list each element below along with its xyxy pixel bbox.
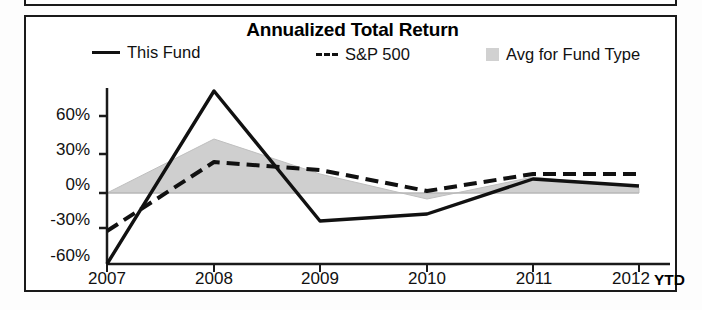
x-axis-ytd-label: YTD xyxy=(654,271,685,289)
dashed-line-swatch-icon xyxy=(316,53,338,56)
gray-band-swatch-icon xyxy=(486,48,499,61)
avg-fund-type-band xyxy=(107,139,639,199)
legend-label-sp500: S&P 500 xyxy=(345,45,410,64)
adjacent-panel-bottom-edge xyxy=(24,0,677,6)
plot-svg xyxy=(26,67,679,292)
legend-label-this-fund: This Fund xyxy=(127,43,200,62)
annualized-total-return-chart: Annualized Total Return This Fund S&P 50… xyxy=(24,15,677,292)
x-tick-label-2011: 2011 xyxy=(499,269,569,289)
x-tick-label-2010: 2010 xyxy=(392,269,462,289)
y-tick-label-30: 30% xyxy=(24,140,90,160)
y-tick-label-0: 0% xyxy=(24,175,90,195)
legend-label-avg-fund-type: Avg for Fund Type xyxy=(506,45,640,64)
x-tick-label-2009: 2009 xyxy=(285,269,355,289)
solid-line-swatch-icon xyxy=(92,51,120,54)
legend-item-sp500: S&P 500 xyxy=(316,45,410,64)
legend-item-this-fund: This Fund xyxy=(92,43,200,62)
chart-screenshot: Annualized Total Return This Fund S&P 50… xyxy=(0,0,702,310)
x-tick-label-2007: 2007 xyxy=(72,269,142,289)
chart-legend: This Fund S&P 500 Avg for Fund Type xyxy=(26,43,679,69)
legend-item-avg-fund-type: Avg for Fund Type xyxy=(486,45,640,64)
y-tick-label-neg60: -60% xyxy=(24,246,90,266)
x-tick-label-2008: 2008 xyxy=(179,269,249,289)
y-tick-label-neg30: -30% xyxy=(24,210,90,230)
chart-title: Annualized Total Return xyxy=(26,19,679,41)
plot-area: 60% 30% 0% -30% -60% 2007 2008 2009 2010… xyxy=(26,67,679,292)
y-tick-label-60: 60% xyxy=(24,105,90,125)
